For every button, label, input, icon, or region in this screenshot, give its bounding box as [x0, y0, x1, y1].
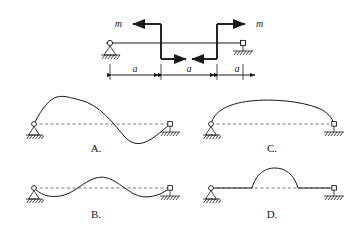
ground-hatching: [325, 132, 343, 136]
ground-hatching: [161, 132, 179, 136]
ground-hatching: [161, 196, 179, 200]
engineering-figure: m m: [0, 0, 362, 230]
option-b-label: B.: [91, 208, 101, 220]
ground-hatching: [102, 55, 120, 59]
roller-block: [168, 186, 173, 191]
option-c-label: C.: [267, 142, 277, 154]
pin-circle: [209, 186, 214, 191]
roller-block: [241, 40, 246, 45]
pin-triangle: [206, 191, 217, 199]
option-a-label: A.: [91, 142, 102, 154]
ground-hatching: [325, 196, 343, 200]
dim-label-3: a: [235, 63, 240, 74]
roller-block: [332, 186, 337, 191]
pin-circle: [32, 186, 37, 191]
m-label-left: m: [115, 18, 122, 29]
deflection-curve-d: [211, 168, 334, 188]
pin-triangle: [104, 46, 116, 55]
option-a[interactable]: A.: [26, 96, 180, 154]
option-d-label: D.: [267, 208, 278, 220]
roller-block: [168, 122, 173, 127]
dim-label-2: a: [187, 63, 192, 74]
pin-circle: [209, 122, 214, 127]
m-label-right: m: [256, 18, 263, 29]
ground-hatching: [234, 51, 252, 55]
deflection-curve-a: [34, 96, 170, 143]
option-c[interactable]: C.: [203, 100, 344, 154]
option-b[interactable]: B.: [26, 177, 180, 220]
dimension-set: a a a: [110, 63, 255, 80]
option-d[interactable]: D.: [203, 168, 344, 220]
pin-triangle: [29, 127, 40, 135]
deflection-curve-b: [34, 177, 170, 197]
moment-couple-right: m: [192, 18, 263, 59]
pin-circle: [32, 122, 37, 127]
ground-hatching: [27, 199, 45, 203]
pin-triangle: [206, 127, 217, 135]
figure-container: m m: [0, 0, 362, 230]
roller-block: [332, 122, 337, 127]
deflection-curve-c: [211, 100, 334, 124]
pin-circle: [107, 40, 112, 45]
ground-hatching: [204, 135, 222, 139]
top-diagram: m m: [101, 18, 263, 80]
dim-label-1: a: [133, 63, 138, 74]
ground-hatching: [204, 199, 222, 203]
moment-couple-left: m: [115, 18, 186, 59]
ground-hatching: [27, 135, 45, 139]
